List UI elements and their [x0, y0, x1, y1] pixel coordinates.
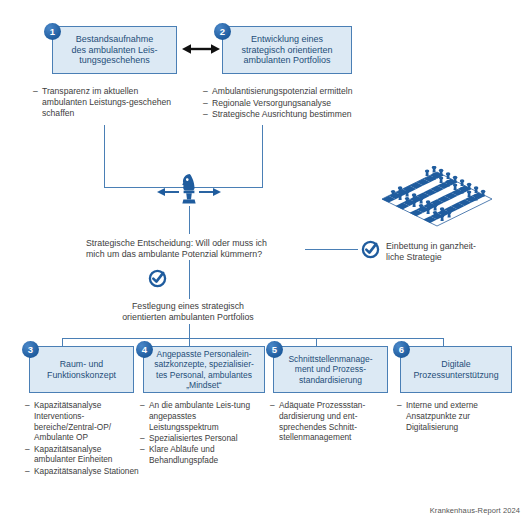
node-box-1-bullets: – Transparenz im aktuellen ambulanten Le… [33, 86, 181, 120]
bullet-dash-icon: – [270, 400, 277, 443]
node-box-4-title-line4: „Mindset“ [154, 380, 254, 390]
node-badge-3: 3 [22, 341, 39, 358]
list-item: – Kapazitätsanalyse Stationen [25, 466, 140, 477]
connector-to-box3 [62, 338, 63, 346]
node-box-1[interactable]: Bestandsaufnahme des ambulanten Leis- tu… [52, 26, 177, 74]
bullet-dash-icon: – [203, 109, 210, 120]
result-portfolio-text: Festlegung eines strategisch orientierte… [80, 301, 296, 324]
connector-to-box5 [316, 338, 317, 346]
node-box-2-title-line1: Entwicklung eines [241, 34, 332, 45]
node-box-3-title-line1: Raum- und [47, 359, 116, 370]
connector-decision-to-side-note [305, 249, 358, 250]
connector-bottom-bus [62, 338, 443, 339]
list-item-text: Spezialisiertes Personal [149, 433, 262, 444]
node-box-3[interactable]: Raum- und Funktionskonzept [29, 346, 134, 393]
strategic-decision-line2: mich um das ambulante Potenzial kümmern? [86, 249, 302, 260]
connector-knight-to-decision [189, 206, 190, 234]
node-box-6-title: Digitale Prozessunterstützung [413, 359, 498, 380]
node-badge-6: 6 [393, 341, 410, 358]
node-box-3-title: Raum- und Funktionskonzept [47, 359, 116, 380]
connector-decision-down [189, 260, 190, 299]
list-item-text: Klare Abläufe und Behandlungspfade [149, 444, 262, 466]
node-box-4-bullets: – An die ambulante Leis-tung angepasstes… [140, 400, 262, 466]
check-circle-icon [148, 269, 167, 288]
connector-box1-down [104, 125, 105, 187]
bullet-dash-icon: – [203, 98, 210, 109]
node-box-4-title-line3: tes Personal, ambulantes [154, 370, 254, 380]
node-box-5-title: Schnittstellenmanage- ment und Prozess- … [288, 354, 372, 385]
connector-box2-down [262, 125, 263, 187]
node-box-5-title-line1: Schnittstellenmanage- [288, 354, 372, 364]
node-box-5-title-line2: ment und Prozess- [288, 364, 372, 374]
node-box-6-bullets: – Interne und externe Ansatzpunkte zur D… [397, 400, 512, 433]
side-note-line2: liche Strategie [386, 252, 508, 263]
list-item: – An die ambulante Leis-tung angepasstes… [140, 400, 262, 432]
bullet-dash-icon: – [203, 86, 210, 97]
list-item-text: Kapazitätsanalyse ambulanter Einheiten [34, 444, 140, 466]
node-box-2[interactable]: Entwicklung eines strategisch orientiert… [222, 26, 352, 74]
list-item: – Strategische Ausrichtung bestimmen [203, 109, 363, 120]
chess-knight-icon [177, 172, 201, 206]
list-item: – Klare Abläufe und Behandlungspfade [140, 444, 262, 466]
strategic-decision-line1: Strategische Entscheidung: Will oder mus… [86, 238, 302, 249]
node-box-3-bullets: – Kapazitätsanalyse Interventions-bereic… [25, 400, 140, 477]
source-caption: Krankenhaus-Report 2024 [430, 506, 520, 515]
double-arrow-icon [182, 41, 220, 57]
connector-to-box6 [443, 338, 444, 346]
node-box-2-bullets: – Ambulantisierungspotenzial ermitteln –… [203, 86, 363, 121]
node-box-1-title-line2: des ambulanten Leis- [71, 45, 157, 56]
node-badge-4: 4 [136, 341, 153, 358]
node-box-4-title: Angepasste Personalein- satzkonzepte, sp… [154, 349, 254, 390]
list-item-text: Interne und externe Ansatzpunkte zur Dig… [406, 400, 512, 432]
list-item: – Adäquate Prozessstan-dardisierung und … [270, 400, 388, 443]
node-box-5[interactable]: Schnittstellenmanage- ment und Prozess- … [273, 346, 388, 393]
node-box-1-title-line1: Bestandsaufnahme [71, 34, 157, 45]
check-circle-icon-side [361, 240, 380, 259]
list-item-text: Ambulantisierungspotenzial ermitteln [212, 86, 363, 97]
node-box-4-title-line1: Angepasste Personalein- [154, 349, 254, 359]
bullet-dash-icon: – [33, 86, 40, 120]
list-item-text: Kapazitätsanalyse Stationen [34, 466, 140, 477]
node-box-3-title-line2: Funktionskonzept [47, 370, 116, 381]
result-portfolio-line1: Festlegung eines strategisch [80, 301, 296, 312]
node-box-5-bullets: – Adäquate Prozessstan-dardisierung und … [270, 400, 388, 444]
bullet-dash-icon: – [140, 400, 147, 432]
list-item: – Interne und externe Ansatzpunkte zur D… [397, 400, 512, 432]
connector-result-down [189, 324, 190, 338]
node-badge-1: 1 [44, 23, 61, 40]
chessboard-icon [378, 166, 496, 228]
knight-left-arrow-icon [157, 184, 179, 196]
node-badge-5-label: 5 [272, 345, 277, 355]
list-item-text: An die ambulante Leis-tung angepasstes L… [149, 400, 262, 432]
knight-right-arrow-icon [199, 184, 221, 196]
list-item: – Kapazitätsanalyse ambulanter Einheiten [25, 444, 140, 466]
bullet-dash-icon: – [140, 433, 147, 444]
node-box-2-title: Entwicklung eines strategisch orientiert… [241, 34, 332, 67]
bullet-dash-icon: – [25, 444, 32, 466]
node-box-2-title-line3: ambulanten Portfolios [241, 55, 332, 66]
list-item-text: Kapazitätsanalyse Interventions-bereiche… [34, 400, 140, 443]
list-item: – Spezialisiertes Personal [140, 433, 262, 444]
bullet-dash-icon: – [25, 466, 32, 477]
node-box-6[interactable]: Digitale Prozessunterstützung [400, 346, 512, 393]
bullet-dash-icon: – [140, 444, 147, 466]
list-item: – Transparenz im aktuellen ambulanten Le… [33, 86, 181, 120]
list-item-text: Transparenz im aktuellen ambulanten Leis… [42, 86, 181, 120]
strategic-decision-text: Strategische Entscheidung: Will oder mus… [86, 238, 302, 261]
node-badge-2-label: 2 [220, 27, 225, 37]
list-item-text: Regionale Versorgungsanalyse [212, 98, 363, 109]
node-box-2-title-line2: strategisch orientierten [241, 45, 332, 56]
node-box-1-title-line3: tungsgeschehens [71, 55, 157, 66]
list-item: – Ambulantisierungspotenzial ermitteln [203, 86, 363, 97]
node-box-1-title: Bestandsaufnahme des ambulanten Leis- tu… [71, 34, 157, 67]
node-box-6-title-line2: Prozessunterstützung [413, 370, 498, 381]
node-badge-6-label: 6 [399, 345, 404, 355]
node-box-4-title-line2: satzkonzepte, spezialisier- [154, 359, 254, 369]
list-item: – Regionale Versorgungsanalyse [203, 98, 363, 109]
connector-to-box4 [189, 338, 190, 346]
node-box-6-title-line1: Digitale [413, 359, 498, 370]
bullet-dash-icon: – [397, 400, 404, 432]
node-badge-5: 5 [266, 341, 283, 358]
result-portfolio-line2: orientierten ambulanten Portfolios [80, 312, 296, 323]
node-box-4[interactable]: Angepasste Personalein- satzkonzepte, sp… [143, 346, 265, 393]
